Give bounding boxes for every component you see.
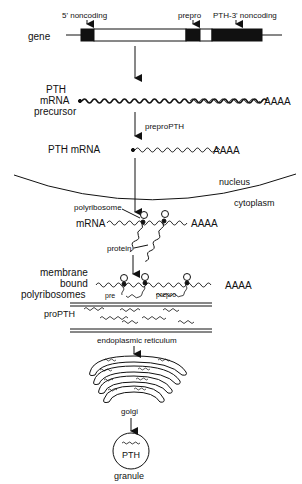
golgi-cargo	[104, 359, 116, 361]
golgi-cisterna-4	[104, 386, 165, 403]
ribosome-small-subunit-icon	[122, 282, 126, 286]
preproPTH-label: preproPTH	[145, 122, 184, 131]
polyribosome-pointer	[122, 209, 140, 218]
propth-chain	[142, 317, 166, 320]
polyribosomes-label: polyribosomes	[21, 289, 85, 300]
pth-3prime-label: PTH-3' noncoding	[213, 11, 277, 20]
gene-section: gene 5' noncoding prepro PTH-3' noncodin…	[28, 11, 282, 78]
golgi-label: golgi	[121, 407, 138, 416]
precursor-label-precursor: precursor	[34, 106, 77, 117]
ribosome-small-subunit-icon	[141, 220, 145, 224]
propth-chain	[178, 321, 194, 324]
mature-mrna-section: PTH mRNA AAAA	[48, 144, 240, 212]
exon-prepro	[186, 29, 200, 41]
ribosome-large-subunit-icon	[184, 274, 191, 281]
five-prime-noncoding-label: 5' noncoding	[62, 11, 107, 20]
mature-mrna-strand	[135, 148, 220, 152]
membrane-polya: AAAA	[225, 280, 252, 291]
intron-1	[94, 29, 186, 41]
nuclear-envelope-line	[14, 174, 296, 200]
golgi-cargo	[138, 368, 150, 370]
ribosome-small-subunit-icon	[185, 281, 189, 285]
pth-biosynthesis-diagram: gene 5' noncoding prepro PTH-3' noncodin…	[0, 0, 302, 484]
nascent-protein-chain	[145, 221, 164, 263]
free-polyribosome-section: polyribosome mRNA AAAA protein	[74, 203, 218, 274]
golgi-cargo	[136, 378, 148, 380]
nascent-protein-chain	[130, 223, 144, 253]
granule-pth-label: PTH	[122, 450, 140, 460]
cytoplasm-label: cytoplasm	[234, 198, 275, 208]
free-polya: AAAA	[191, 218, 218, 229]
granule-section: PTH granule	[113, 433, 149, 481]
signal-peptide-chain	[122, 287, 124, 295]
cap-icon	[131, 148, 134, 151]
membrane-bound-section: membrane bound polyribosomes AAAA pre pr…	[21, 267, 252, 354]
pre-label: pre	[105, 292, 115, 300]
precursor-label-mrna: mRNA	[40, 95, 70, 106]
ribosome-large-subunit-icon	[141, 212, 148, 219]
ribosome-small-subunit-icon	[143, 281, 147, 285]
ribosome-large-subunit-icon	[142, 274, 149, 281]
propth-chain	[163, 309, 179, 312]
membrane-label: membrane	[40, 267, 88, 278]
mature-polya: AAAA	[213, 145, 240, 156]
propth-label: proPTH	[44, 309, 75, 319]
signal-peptide-chain	[126, 286, 145, 298]
bound-label: bound	[60, 278, 88, 289]
nuclear-membrane: nucleus cytoplasm	[14, 174, 296, 208]
ribosome-small-subunit-icon	[162, 219, 166, 223]
prepro-inner-label: prepro	[156, 291, 176, 299]
protein-label: protein	[107, 244, 131, 253]
cap-icon	[78, 99, 81, 102]
intron-2	[200, 29, 212, 41]
free-mrna-strand	[107, 221, 187, 225]
pth-mrna-label: PTH mRNA	[48, 144, 101, 155]
nucleus-label: nucleus	[219, 177, 251, 187]
ribosome-large-subunit-icon	[162, 211, 169, 218]
propth-chain	[120, 309, 140, 312]
granule-label: granule	[114, 471, 144, 481]
er-label: endoplasmic reticulum	[97, 336, 177, 345]
protein-pointer	[134, 245, 148, 248]
propth-chain	[122, 321, 138, 324]
golgi-cargo	[134, 388, 146, 390]
golgi-section: golgi	[90, 356, 187, 431]
membrane-mrna-strand	[96, 283, 211, 287]
propth-chain	[84, 308, 104, 311]
propth-chain	[100, 317, 128, 320]
exon-5prime-noncoding	[81, 29, 94, 41]
precursor-polya: AAAA	[264, 96, 291, 107]
polyribosome-label: polyribosome	[74, 203, 122, 212]
prepro-label: prepro	[178, 11, 202, 20]
gene-label: gene	[28, 31, 51, 42]
ribosome-large-subunit-icon	[121, 275, 128, 282]
precursor-label-pth: PTH	[46, 84, 66, 95]
exon-pth-3prime	[212, 29, 262, 41]
free-mrna-label: mRNA	[76, 218, 106, 229]
granule-pth-chain	[122, 442, 140, 444]
mrna-precursor-section: PTH mRNA precursor AAAA preproPTH	[34, 84, 291, 136]
